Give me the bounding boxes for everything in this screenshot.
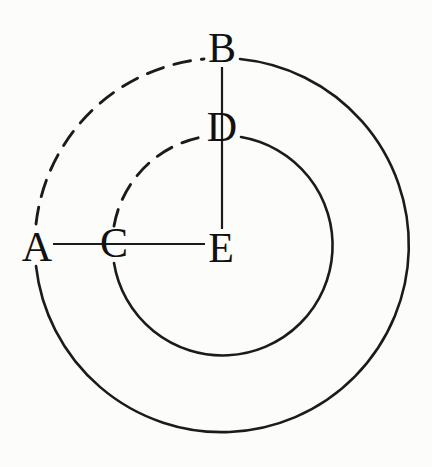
point-label-E: E xyxy=(208,225,234,271)
diagram-canvas: A B C D E xyxy=(0,0,432,467)
point-label-D: D xyxy=(207,104,237,150)
geometry-diagram: A B C D E xyxy=(0,0,432,467)
point-label-A: A xyxy=(22,224,53,270)
outer-circle-dashed-arc xyxy=(36,59,204,224)
inner-circle-dashed-arc xyxy=(114,137,202,226)
point-label-B: B xyxy=(208,25,236,71)
point-label-C: C xyxy=(100,220,128,266)
